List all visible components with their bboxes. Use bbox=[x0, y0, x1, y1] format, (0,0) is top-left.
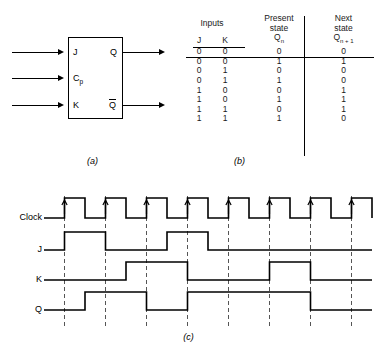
output-wire-q-not bbox=[123, 105, 163, 106]
cell-spacer bbox=[238, 105, 248, 115]
header-inputs-label: Inputs bbox=[186, 19, 238, 29]
header-inputs-group: Inputs bbox=[186, 14, 238, 31]
waveform-clock bbox=[44, 198, 372, 218]
pin-label-q: Q bbox=[110, 47, 117, 57]
rising-edge-arrow-icon bbox=[349, 200, 354, 214]
header-spacer bbox=[238, 14, 248, 31]
rising-edge-arrow-icon bbox=[103, 200, 108, 214]
table-row: 0110 bbox=[186, 76, 377, 86]
pin-label-cp: Cp bbox=[73, 73, 83, 87]
input-wire-cp bbox=[12, 78, 62, 79]
cell-spacer bbox=[238, 76, 248, 86]
cell-j: 1 bbox=[186, 114, 212, 124]
table-row: 1011 bbox=[186, 95, 377, 105]
rising-edge-arrow-icon bbox=[308, 200, 313, 214]
table-row: 1110 bbox=[186, 114, 377, 124]
rising-edge-arrow-icon bbox=[144, 200, 149, 214]
header-spacer-2 bbox=[238, 31, 248, 47]
pin-label-q-not: Q bbox=[109, 99, 116, 110]
header-present-state: Present state Qn bbox=[248, 14, 310, 47]
cell-spacer bbox=[238, 47, 248, 57]
output-arrow-q-icon bbox=[159, 49, 165, 55]
header-present-state-symbol: Q bbox=[274, 32, 281, 42]
table-header-row-group: Inputs Present state Qn Next state Qn + … bbox=[186, 14, 377, 31]
cell-k: 1 bbox=[212, 114, 238, 124]
rising-edge-arrow-icon bbox=[62, 200, 67, 214]
rising-edge-arrow-icon bbox=[267, 200, 272, 214]
table-row: 0100 bbox=[186, 66, 377, 76]
waveform-k bbox=[44, 262, 372, 280]
header-col-k: K bbox=[212, 31, 238, 47]
pin-label-j: J bbox=[73, 47, 78, 57]
jk-truth-table: Inputs Present state Qn Next state Qn + … bbox=[186, 14, 377, 124]
output-wire-q bbox=[123, 52, 163, 53]
header-next-state-line2: state bbox=[310, 24, 377, 34]
cell-spacer bbox=[238, 114, 248, 124]
cell-spacer bbox=[238, 66, 248, 76]
cell-spacer bbox=[238, 86, 248, 96]
rising-edge-arrow-icon bbox=[185, 200, 190, 214]
cell-spacer bbox=[238, 95, 248, 105]
header-next-state: Next state Qn + 1 bbox=[310, 14, 377, 47]
pin-label-cp-sub: p bbox=[80, 78, 84, 85]
output-arrow-q-not-icon bbox=[159, 102, 165, 108]
table-body: 00000011010001101001101111011110 bbox=[186, 47, 377, 124]
pin-label-q-not-letter: Q bbox=[109, 99, 116, 110]
header-col-j: J bbox=[186, 31, 212, 47]
figure-part-c-timing-diagram: Clock J K Q (c) bbox=[0, 184, 377, 357]
waveform-traces bbox=[44, 198, 372, 310]
cell-spacer bbox=[238, 57, 248, 67]
input-wire-j bbox=[12, 52, 62, 53]
table-row: 0000 bbox=[186, 47, 377, 57]
table-row: 0011 bbox=[186, 57, 377, 67]
input-wire-k bbox=[12, 105, 62, 106]
input-arrow-cp-icon bbox=[58, 75, 64, 81]
waveform-q bbox=[44, 292, 372, 310]
input-arrow-k-icon bbox=[58, 102, 64, 108]
cell-present-state: 1 bbox=[248, 114, 310, 124]
timing-waveforms bbox=[0, 184, 377, 334]
figure-part-b-truth-table: Inputs Present state Qn Next state Qn + … bbox=[186, 0, 377, 182]
header-next-state-sub: n + 1 bbox=[340, 38, 354, 44]
table-row: 1001 bbox=[186, 86, 377, 96]
header-next-state-symbol-wrap: Qn + 1 bbox=[310, 33, 377, 46]
pin-label-k: K bbox=[73, 100, 79, 110]
caption-c: (c) bbox=[0, 332, 377, 342]
table-head: Inputs Present state Qn Next state Qn + … bbox=[186, 14, 377, 47]
rising-edge-arrow-icon bbox=[226, 200, 231, 214]
waveform-j bbox=[44, 232, 372, 250]
table-row: 1101 bbox=[186, 105, 377, 115]
caption-b: (b) bbox=[144, 156, 335, 166]
input-arrow-j-icon bbox=[58, 49, 64, 55]
header-present-state-symbol-wrap: Qn bbox=[248, 33, 310, 46]
cell-next-state: 0 bbox=[310, 114, 377, 124]
header-present-state-sub: n bbox=[281, 38, 284, 44]
figure-part-a-symbol: J Cp K Q Q (a) bbox=[0, 0, 185, 182]
